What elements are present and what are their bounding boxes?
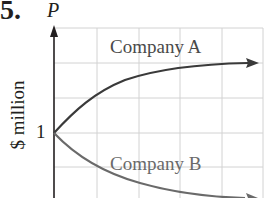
series-label-company-a: Company A [110, 36, 201, 58]
y-tick-label: 1 [36, 121, 46, 143]
y-axis [50, 25, 58, 198]
series-label-company-b: Company B [110, 153, 201, 175]
y-axis-arrow-icon [50, 25, 58, 37]
arrowhead-b-icon [246, 193, 258, 198]
y-axis-label: $ million [7, 75, 29, 155]
y-axis-symbol: P [47, 0, 59, 22]
problem-number: 5. [0, 0, 21, 26]
series-company-a [54, 58, 259, 133]
